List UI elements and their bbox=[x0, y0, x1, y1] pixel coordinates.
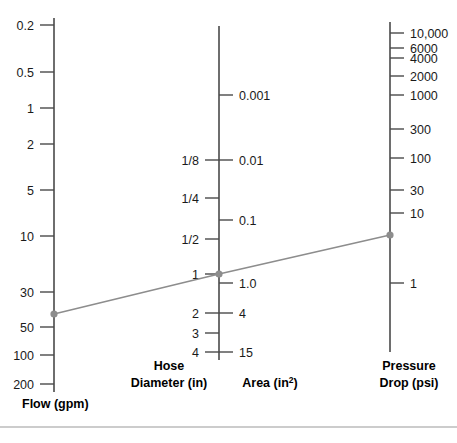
index-point-hose-diameter bbox=[215, 270, 222, 277]
axis-tick-label: 10 bbox=[410, 207, 424, 221]
axis-tick-label: 0.1 bbox=[239, 214, 256, 228]
flow-axis-title: Flow (gpm) bbox=[22, 397, 89, 411]
pressure-drop-axis-group: 10,000600040002000100030010030101 bbox=[390, 22, 448, 352]
axis-tick-label: 100 bbox=[410, 152, 431, 166]
pressure-axis-title-line2: Drop (psi) bbox=[379, 376, 438, 390]
flow-axis-group: 0.20.5125103050100200 bbox=[13, 18, 54, 392]
axis-tick-label: 2000 bbox=[410, 70, 438, 84]
axis-tick-label: 200 bbox=[13, 378, 34, 392]
axis-tick-label: 0.2 bbox=[17, 19, 34, 33]
axis-tick-label: 5 bbox=[27, 184, 34, 198]
axis-tick-label: 0.5 bbox=[17, 66, 34, 80]
axis-tick-label: 2 bbox=[192, 307, 199, 321]
axis-tick-label: 10 bbox=[20, 230, 34, 244]
nomogram-chart: 0.20.5125103050100200 1/81/41/21234 0.00… bbox=[0, 0, 457, 443]
index-point-flow bbox=[50, 310, 57, 317]
axis-tick-label: 3 bbox=[192, 327, 199, 341]
axis-tick-label: 30 bbox=[20, 286, 34, 300]
axis-tick-label: 1/2 bbox=[182, 233, 199, 247]
nomogram-svg: 0.20.5125103050100200 1/81/41/21234 0.00… bbox=[0, 0, 457, 443]
axis-tick-label: 1/4 bbox=[182, 192, 199, 206]
area-axis-ticks: 0.0010.010.11.0415 bbox=[219, 89, 270, 360]
axis-tick-label: 0.001 bbox=[239, 89, 270, 103]
axis-tick-label: 50 bbox=[20, 321, 34, 335]
axis-tick-label: 100 bbox=[13, 349, 34, 363]
axis-tick-label: 300 bbox=[410, 123, 431, 137]
axis-tick-label: 1 bbox=[410, 277, 417, 291]
index-line-group bbox=[50, 231, 393, 317]
axis-tick-label: 2 bbox=[27, 138, 34, 152]
area-axis-title: Area (in2) bbox=[242, 375, 297, 390]
pressure-drop-axis-ticks: 10,000600040002000100030010030101 bbox=[390, 27, 448, 291]
pressure-axis-title-line1: Pressure bbox=[382, 359, 436, 373]
axis-tick-label: 30 bbox=[410, 184, 424, 198]
index-line-markers bbox=[50, 231, 393, 317]
axis-tick-label: 10,000 bbox=[410, 27, 448, 41]
area-axis-title-close: ) bbox=[294, 376, 298, 390]
axis-tick-label: 4 bbox=[239, 307, 246, 321]
flow-axis-ticks: 0.20.5125103050100200 bbox=[13, 19, 54, 392]
axis-tick-label: 15 bbox=[239, 346, 253, 360]
center-axis-group: 1/81/41/21234 0.0010.010.11.0415 bbox=[182, 26, 271, 360]
axis-tick-label: 1 bbox=[27, 102, 34, 116]
hose-axis-title-line1: Hose bbox=[154, 359, 185, 373]
axis-tick-label: 4 bbox=[192, 346, 199, 360]
axis-tick-label: 1000 bbox=[410, 89, 438, 103]
hose-axis-title-line2: Diameter (in) bbox=[131, 376, 207, 390]
axis-tick-label: 1/8 bbox=[182, 154, 199, 168]
axis-tick-label: 0.01 bbox=[239, 154, 263, 168]
hose-diameter-axis-ticks: 1/81/41/21234 bbox=[182, 154, 219, 360]
index-point-pressure-drop bbox=[386, 231, 393, 238]
area-axis-title-main: Area (in bbox=[242, 376, 289, 390]
axis-tick-label: 4000 bbox=[410, 52, 438, 66]
axis-tick-label: 1.0 bbox=[239, 277, 256, 291]
